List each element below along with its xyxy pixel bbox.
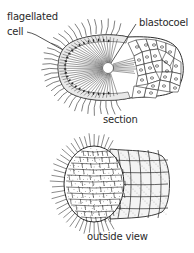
- stipple-dot: [164, 172, 165, 173]
- stipple-dot: [96, 193, 97, 194]
- stipple-dot: [113, 188, 114, 189]
- stipple-dot: [92, 208, 93, 209]
- stipple-dot: [70, 165, 71, 166]
- stipple-dot: [142, 166, 143, 167]
- stipple-dot: [101, 211, 102, 212]
- stipple-dot: [150, 198, 151, 199]
- stipple-dot: [119, 196, 120, 197]
- flagellum: [75, 218, 80, 228]
- stipple-dot: [80, 175, 81, 176]
- stipple-dot: [129, 161, 130, 162]
- stipple-dot: [94, 180, 95, 181]
- flagellum: [101, 221, 104, 232]
- flagellum: [64, 31, 73, 42]
- stipple-dot: [155, 171, 156, 172]
- stipple-dot: [96, 162, 97, 163]
- flagellum: [75, 97, 82, 111]
- stipple-dot: [133, 213, 134, 214]
- stipple-dot: [106, 162, 107, 163]
- stipple-dot: [146, 194, 147, 195]
- stipple-dot: [86, 168, 87, 169]
- blastocoel-cavity: [103, 63, 114, 74]
- stipple-dot: [89, 192, 90, 193]
- stipple-dot: [77, 191, 78, 192]
- stipple-dot: [136, 160, 137, 161]
- stipple-dot: [96, 149, 97, 150]
- stipple-dot: [165, 181, 166, 182]
- flagellum: [104, 220, 109, 231]
- stipple-dot: [101, 218, 102, 219]
- stipple-dot: [82, 164, 83, 165]
- stipple-dot: [122, 210, 123, 211]
- stipple-dot: [110, 211, 111, 212]
- flagellum: [57, 159, 68, 165]
- stipple-dot: [137, 193, 138, 194]
- stipple-dot: [125, 157, 126, 158]
- stipple-dot: [138, 186, 139, 187]
- stipple-dot: [104, 191, 105, 192]
- stipple-dot: [75, 202, 76, 203]
- stipple-dot: [148, 196, 149, 197]
- stipple-dot: [103, 206, 104, 207]
- stipple-dot: [167, 167, 168, 168]
- stipple-dot: [160, 168, 161, 169]
- stipple-dot: [87, 179, 88, 180]
- stipple-dot: [74, 189, 75, 190]
- stipple-dot: [67, 177, 68, 178]
- stipple-dot: [89, 183, 90, 184]
- stipple-dot: [163, 179, 164, 180]
- stipple-dot: [99, 201, 100, 202]
- stipple-dot: [146, 170, 147, 171]
- stipple-dot: [132, 156, 133, 157]
- stipple-dot: [102, 163, 103, 164]
- stipple-dot: [74, 165, 75, 166]
- stipple-dot: [149, 205, 150, 206]
- stipple-dot: [74, 170, 75, 171]
- stipple-dot: [106, 195, 107, 196]
- flagellum: [47, 48, 61, 54]
- stipple-dot: [142, 190, 143, 191]
- stipple-dot: [79, 203, 80, 204]
- stipple-dot: [70, 170, 71, 171]
- stipple-dot: [102, 153, 103, 154]
- flagellum: [104, 137, 109, 148]
- stipple-dot: [149, 189, 150, 190]
- stipple-dot: [93, 152, 94, 153]
- stipple-dot: [81, 192, 82, 193]
- stipple-dot: [157, 173, 158, 174]
- flagellum: [44, 59, 59, 62]
- stipple-dot: [104, 168, 105, 169]
- stipple-dot: [110, 192, 111, 193]
- caption-section: section: [103, 115, 138, 125]
- stipple-dot: [78, 186, 79, 187]
- stipple-dot: [159, 175, 160, 176]
- flagellum: [52, 175, 65, 177]
- stipple-dot: [100, 191, 101, 192]
- stipple-dot: [86, 163, 87, 164]
- flagellum: [101, 134, 104, 147]
- stipple-dot: [147, 163, 148, 164]
- stipple-dot: [118, 173, 119, 174]
- stipple-dot: [128, 176, 129, 177]
- flagellum: [84, 136, 87, 147]
- label-blastocoel: blastocoel: [139, 18, 188, 28]
- stipple-dot: [167, 183, 168, 184]
- stipple-dot: [105, 173, 106, 174]
- stipple-dot: [90, 216, 91, 217]
- flagellum: [74, 138, 80, 150]
- stipple-dot: [167, 207, 168, 208]
- flagellum: [52, 195, 66, 199]
- stipple-dot: [90, 155, 91, 156]
- stipple-dot: [157, 197, 158, 198]
- stipple-dot: [154, 202, 155, 203]
- stipple-dot: [85, 212, 86, 213]
- flagellum: [82, 98, 87, 111]
- stipple-dot: [94, 184, 95, 185]
- stipple-dot: [143, 183, 144, 184]
- stipple-dot: [144, 152, 145, 153]
- stipple-dot: [162, 210, 163, 211]
- stipple-dot: [111, 202, 112, 203]
- stipple-dot: [140, 188, 141, 189]
- stipple-dot: [82, 169, 83, 170]
- stipple-dot: [121, 177, 122, 178]
